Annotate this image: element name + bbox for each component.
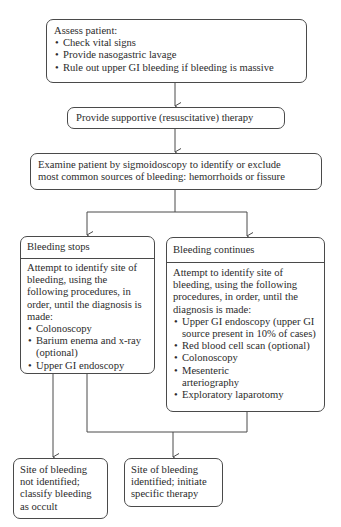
bleeding-continues-list: Upper GI endoscopy (upper GI source pres… bbox=[173, 316, 318, 401]
procedure-item: Colonoscopy bbox=[173, 352, 318, 364]
site-identified-box: Site of bleeding identified; initiate sp… bbox=[124, 458, 223, 507]
bleeding-stops-box: Bleeding stops Attempt to identify site … bbox=[20, 236, 155, 374]
bleeding-stops-intro: Attempt to identify site of bleeding, us… bbox=[27, 262, 148, 323]
not-identified-text: Site of bleeding not identified; classif… bbox=[20, 464, 92, 512]
assess-item: Check vital signs bbox=[54, 37, 299, 49]
bleeding-continues-intro: Attempt to identify site of bleeding, us… bbox=[173, 267, 318, 316]
examine-line-1: Examine patient by sigmoidoscopy to iden… bbox=[38, 159, 314, 171]
site-not-identified-box: Site of bleeding not identified; classif… bbox=[13, 458, 108, 519]
assess-patient-box: Assess patient: Check vital signs Provid… bbox=[46, 19, 307, 83]
procedure-item: Upper GI endoscopy bbox=[27, 360, 148, 372]
procedure-item: Upper GI endoscopy (upper GI source pres… bbox=[173, 316, 318, 340]
assess-item: Rule out upper GI bleeding if bleeding i… bbox=[54, 62, 299, 74]
examine-line-2: most common sources of bleeding: hemorrh… bbox=[38, 171, 314, 183]
procedure-item: Barium enema and x-ray (optional) bbox=[27, 335, 148, 359]
bleeding-continues-box: Bleeding continues Attempt to identify s… bbox=[166, 237, 325, 412]
examine-sigmoidoscopy-box: Examine patient by sigmoidoscopy to iden… bbox=[30, 153, 322, 190]
procedure-item: Colonoscopy bbox=[27, 323, 148, 335]
supportive-text: Provide supportive (resuscitative) thera… bbox=[76, 112, 253, 123]
assess-list: Check vital signs Provide nasogastric la… bbox=[54, 37, 299, 74]
procedure-item: Exploratory laparotomy bbox=[173, 389, 318, 401]
assess-item: Provide nasogastric lavage bbox=[54, 49, 299, 61]
bleeding-continues-header: Bleeding continues bbox=[167, 238, 324, 263]
supportive-therapy-box: Provide supportive (resuscitative) thera… bbox=[67, 107, 285, 129]
identified-text: Site of bleeding identified; initiate sp… bbox=[131, 464, 207, 499]
bleeding-stops-list: Colonoscopy Barium enema and x-ray (opti… bbox=[27, 323, 148, 372]
bleeding-stops-header: Bleeding stops bbox=[21, 237, 154, 259]
assess-title: Assess patient: bbox=[54, 25, 299, 37]
procedure-item: Red blood cell scan (optional) bbox=[173, 340, 318, 352]
procedure-item: Mesenteric arteriography bbox=[173, 365, 242, 389]
